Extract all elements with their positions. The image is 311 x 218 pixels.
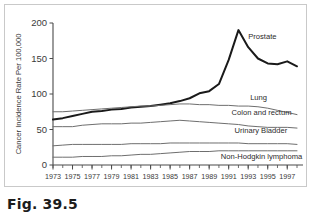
series-labels: ProstateLungColon and rectumUrinary Blad… (221, 32, 303, 162)
series-line-prostate (53, 30, 297, 119)
x-tick-label: 1989 (201, 172, 217, 181)
y-tick-label: 100 (31, 88, 47, 99)
line-chart: 050100150200 197319751977197919811983198… (5, 5, 306, 186)
series-label-lung: Lung (250, 93, 267, 102)
chart-frame: 050100150200 197319751977197919811983198… (4, 4, 307, 187)
x-tick-label: 1991 (221, 172, 237, 181)
series-label-colon-and-rectum: Colon and rectum (232, 108, 292, 117)
x-tick-label: 1977 (84, 172, 100, 181)
x-tick-label: 1987 (182, 172, 198, 181)
y-tick-label: 50 (36, 124, 47, 135)
x-tick-label: 1973 (45, 172, 61, 181)
y-axis-title: Cancer Incidence Rate Per 100,000 (14, 34, 23, 155)
x-tick-label: 1975 (65, 172, 81, 181)
x-tick-label: 1979 (104, 172, 120, 181)
series-line-urinary-bladder (53, 143, 297, 146)
figure-root: 050100150200 197319751977197919811983198… (0, 0, 311, 218)
y-tick-label: 150 (31, 53, 47, 64)
x-tick-label: 1995 (260, 172, 276, 181)
y-axis: 050100150200 (31, 17, 53, 170)
x-tick-label: 1985 (162, 172, 178, 181)
x-axis-title: Year (167, 185, 183, 186)
figure-caption: Fig. 39.5 (7, 196, 78, 212)
x-tick-label: 1993 (240, 172, 256, 181)
x-axis: 1973197519771979198119831985198719891991… (45, 165, 303, 181)
series-label-urinary-bladder: Urinary Bladder (235, 126, 288, 135)
x-tick-label: 1981 (123, 172, 139, 181)
series-label-non-hodgkin-lymphoma: Non-Hodgkin lymphoma (221, 152, 303, 161)
y-tick-label: 200 (31, 17, 47, 28)
y-tick-label: 0 (42, 159, 47, 170)
x-tick-label: 1997 (279, 172, 295, 181)
series-label-prostate: Prostate (248, 32, 276, 41)
x-tick-label: 1983 (143, 172, 159, 181)
